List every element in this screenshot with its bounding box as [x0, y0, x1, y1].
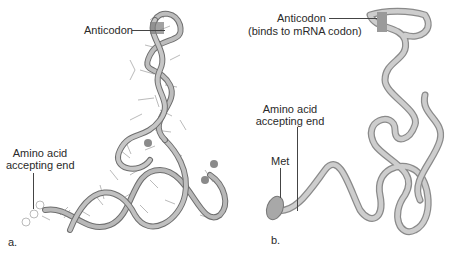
amino-b-label-line2: accepting end — [255, 115, 325, 127]
anticodon-note: (binds to mRNA codon) — [248, 25, 362, 37]
trna-ribbon-illustration — [0, 0, 235, 254]
amino-acid-accepting-end-label: Amino acid accepting end — [6, 147, 74, 171]
amino-b-label-line1: Amino acid — [255, 103, 325, 115]
trna-tube-illustration — [235, 0, 460, 254]
anticodon-leader-line — [132, 30, 165, 31]
panel-b-letter: b. — [271, 234, 280, 246]
panel-a-letter: a. — [8, 236, 17, 248]
met-leader-line — [280, 168, 281, 198]
amino-acid-accepting-end-label-b: Amino acid accepting end — [255, 103, 325, 127]
amino-label-line2: accepting end — [6, 159, 74, 171]
panel-b-trna-tube-model: Anticodon (binds to mRNA codon) Amino ac… — [235, 0, 460, 254]
amino-b-leader-line — [297, 127, 298, 211]
panel-a-trna-ribbon-model: Anticodon Amino acid accepting end a. — [0, 0, 235, 254]
amino-leader-line — [33, 173, 34, 209]
anticodon-b-leader-line — [329, 18, 377, 19]
anticodon-label-b: Anticodon — [277, 12, 326, 24]
met-label: Met — [271, 155, 289, 167]
amino-label-line1: Amino acid — [6, 147, 74, 159]
anticodon-label: Anticodon — [84, 24, 133, 36]
